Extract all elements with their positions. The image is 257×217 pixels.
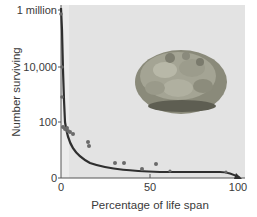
y-tick-label: 0 — [51, 172, 57, 184]
y-axis-title: Number surviving — [10, 47, 22, 136]
y-tick-label: 100 — [39, 116, 57, 128]
shellfish-illustration — [135, 50, 227, 114]
x-tick-label: 50 — [144, 181, 156, 193]
x-axis-title: Percentage of life span — [91, 199, 209, 211]
y-tick-label: 1 million — [17, 4, 57, 16]
x-tick-label: 0 — [58, 181, 64, 193]
y-tick-label: 10,000 — [23, 61, 57, 73]
x-tick-label: 100 — [229, 181, 247, 193]
survivorship-chart: 1 million 10,000 100 0 0 50 100 Percenta… — [0, 0, 257, 217]
